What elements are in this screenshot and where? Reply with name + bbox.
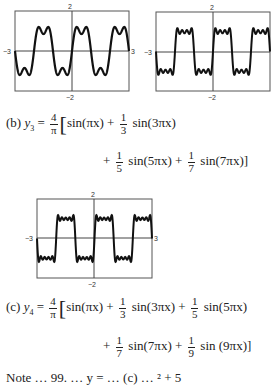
den: 5: [191, 309, 199, 321]
graph-y4-plot: 2 −2 −3 3: [22, 188, 172, 293]
y-max-label: 2: [68, 3, 72, 10]
den: 7: [116, 348, 124, 360]
plus: +: [103, 153, 110, 168]
frac-3: 13: [119, 296, 127, 320]
x-max-label: 3: [154, 235, 158, 242]
coef-frac: 4π: [50, 112, 58, 136]
equation-c-line1: (c) y4 = 4π[sin(πx) + 13 sin(3πx) + 15 s…: [6, 296, 247, 320]
plus: +: [178, 299, 185, 314]
part-label-c: (c): [6, 299, 20, 314]
y-min-label: −2: [88, 281, 96, 288]
x-min-label: −3: [144, 49, 152, 56]
frac-9: 19: [188, 335, 196, 359]
graph-y3: 2 −2 −3: [135, 0, 269, 105]
frac-7: 17: [116, 335, 124, 359]
graph-y2-plot: 2 −2 −3 3: [0, 0, 135, 105]
y-max-label: 2: [210, 4, 214, 11]
y-max-label: 2: [91, 191, 95, 198]
den: 9: [188, 348, 196, 360]
term-7: sin(7πx): [128, 338, 171, 353]
term-9: sin (9πx)]: [200, 338, 251, 353]
coef-den: π: [49, 309, 57, 321]
term-3: sin(3πx): [132, 115, 175, 130]
equation-c-line2: + 17 sin(7πx) + 19 sin (9πx)]: [103, 335, 251, 359]
den: 3: [120, 125, 128, 137]
den: 7: [188, 163, 196, 175]
den: 3: [119, 309, 127, 321]
graph-y2: 2 −2 −3 3: [0, 0, 135, 105]
cutoff-text: Note … 99. … y = … (c) … ² + 5: [6, 370, 181, 386]
num: 1: [188, 335, 196, 348]
term-1: sin(πx): [66, 299, 103, 314]
part-label-b: (b): [6, 115, 21, 130]
term-5: sin(5πx): [204, 299, 247, 314]
coef-num: 4: [49, 296, 57, 309]
frac-5: 15: [191, 296, 199, 320]
frac-3: 13: [120, 112, 128, 136]
num: 1: [119, 296, 127, 309]
num: 1: [120, 112, 128, 125]
graph-y3-plot: 2 −2 −3: [135, 0, 269, 105]
coef-den: π: [50, 125, 58, 137]
plus: +: [106, 299, 113, 314]
lhs-sub: 4: [29, 308, 33, 317]
graph-y4: 2 −2 −3 3: [22, 188, 172, 293]
frac-5: 15: [116, 150, 124, 174]
frac-7: 17: [188, 150, 196, 174]
lhs-sub: 3: [30, 124, 34, 133]
coef-frac: 4π: [49, 296, 57, 320]
term-1: sin(πx): [67, 115, 104, 130]
open-bracket: [: [60, 111, 67, 136]
coef-num: 4: [50, 112, 58, 125]
y-min-label: −2: [208, 94, 216, 101]
num: 1: [191, 296, 199, 309]
x-min-label: −3: [25, 235, 33, 242]
term-5: sin(5πx): [128, 153, 171, 168]
equation-b-line2: + 15 sin(5πx) + 17 sin(7πx)]: [103, 150, 248, 174]
term-7: sin(7πx)]: [200, 153, 248, 168]
equation-b-line1: (b) y3 = 4π[sin(πx) + 13 sin(3πx): [6, 112, 176, 136]
num: 1: [116, 335, 124, 348]
x-min-label: −3: [3, 48, 11, 55]
plus: +: [107, 115, 114, 130]
term-3: sin(3πx): [132, 299, 175, 314]
den: 5: [116, 163, 124, 175]
num: 1: [116, 150, 124, 163]
plus: +: [175, 338, 182, 353]
plus: +: [103, 338, 110, 353]
plus: +: [175, 153, 182, 168]
num: 1: [188, 150, 196, 163]
y-min-label: −2: [66, 94, 74, 101]
